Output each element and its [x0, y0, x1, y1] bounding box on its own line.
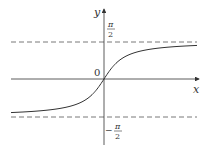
pi-half-denominator: 2	[108, 30, 113, 39]
arctan-chart: y x 0 π 2 − π 2	[0, 0, 207, 155]
y-axis-label: y	[93, 6, 101, 19]
neg-pi-half-denominator: 2	[115, 132, 120, 141]
pi-half-numerator: π	[107, 20, 114, 29]
neg-pi-half-numerator: π	[114, 122, 121, 131]
neg-pi-half-minus: −	[105, 125, 113, 135]
x-axis-label: x	[193, 83, 200, 96]
origin-label: 0	[94, 67, 100, 78]
